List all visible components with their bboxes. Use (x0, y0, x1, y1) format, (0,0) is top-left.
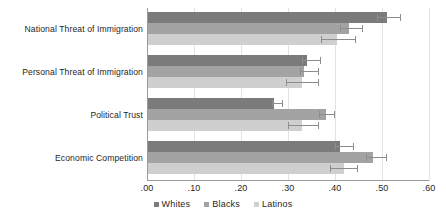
error-bar-cap-high (357, 165, 358, 172)
error-bar-cap-low (286, 79, 287, 86)
bar (148, 163, 344, 174)
category-label-text: Political Trust (0, 110, 143, 120)
error-bar-line (288, 125, 319, 126)
error-bar-line (321, 39, 356, 40)
chart-legend: WhitesBlacksLatinos (0, 199, 446, 209)
error-bar-cap-high (362, 25, 363, 32)
error-bar-line (366, 157, 387, 158)
category-label-text: Economic Competition (0, 153, 143, 163)
error-bar-cap-low (321, 36, 322, 43)
error-bar-cap-low (366, 154, 367, 161)
error-bar-cap-high (320, 57, 321, 64)
error-bar-cap-low (302, 57, 303, 64)
error-bar-cap-high (318, 122, 319, 129)
error-bar (321, 34, 356, 45)
bar (148, 141, 340, 152)
bar (148, 98, 274, 109)
error-bar (272, 98, 284, 109)
error-bar (330, 163, 358, 174)
error-bar-line (335, 146, 354, 147)
error-bar-cap-low (288, 122, 289, 129)
legend-item-blacks[interactable]: Blacks (204, 199, 240, 209)
error-bar-cap-high (355, 36, 356, 43)
error-bar (377, 12, 401, 23)
legend-swatch-icon (204, 202, 209, 207)
legend-item-latinos[interactable]: Latinos (254, 199, 292, 209)
x-tick-label: .50 (375, 183, 388, 193)
legend-swatch-icon (154, 202, 159, 207)
bar (148, 12, 387, 23)
error-bar-cap-high (318, 79, 319, 86)
x-tick-label: .00 (140, 183, 153, 193)
error-bar-line (319, 114, 335, 115)
error-bar-cap-high (400, 14, 401, 21)
bar (148, 152, 373, 163)
category-label-text: National Threat of Immigration (0, 24, 143, 34)
error-bar-cap-high (334, 111, 335, 118)
error-bar (335, 141, 354, 152)
error-bar-line (330, 168, 358, 169)
error-bar-cap-low (330, 165, 331, 172)
legend-item-whites[interactable]: Whites (154, 199, 191, 209)
error-bar-cap-low (300, 68, 301, 75)
error-bar (319, 109, 335, 120)
x-tick-label: .60 (422, 183, 435, 193)
error-bar-cap-high (353, 143, 354, 150)
bar (148, 34, 337, 45)
x-axis-line (147, 180, 429, 181)
gridline (429, 8, 430, 181)
bar (148, 109, 326, 120)
error-bar-cap-low (377, 14, 378, 21)
bar (148, 66, 304, 77)
error-bar-cap-high (282, 100, 283, 107)
x-tick-label: .40 (328, 183, 341, 193)
error-bar-line (377, 17, 401, 18)
error-bar-line (302, 60, 321, 61)
legend-swatch-icon (254, 202, 259, 207)
error-bar (302, 55, 321, 66)
error-bar (366, 152, 387, 163)
error-bar-cap-high (318, 68, 319, 75)
legend-label: Blacks (212, 199, 240, 209)
bar (148, 77, 302, 88)
x-tick-label: .20 (234, 183, 247, 193)
error-bar-cap-low (319, 111, 320, 118)
bar (148, 55, 307, 66)
category-label-text: Personal Threat of Immigration (0, 67, 143, 77)
error-bar-line (286, 82, 319, 83)
bar (148, 23, 349, 34)
plot-area (147, 8, 429, 181)
bar (148, 120, 302, 131)
error-bar-line (300, 71, 319, 72)
error-bar (340, 23, 364, 34)
error-bar-cap-high (386, 154, 387, 161)
error-bar-cap-low (340, 25, 341, 32)
x-tick-label: .10 (187, 183, 200, 193)
legend-label: Whites (162, 199, 191, 209)
error-bar-cap-low (335, 143, 336, 150)
error-bar (300, 66, 319, 77)
error-bar (288, 120, 319, 131)
error-bar-cap-low (272, 100, 273, 107)
error-bar-line (340, 28, 364, 29)
error-bar (286, 77, 319, 88)
legend-label: Latinos (262, 199, 292, 209)
bar-chart: National Threat of ImmigrationPersonal T… (0, 0, 446, 221)
x-tick-label: .30 (281, 183, 294, 193)
